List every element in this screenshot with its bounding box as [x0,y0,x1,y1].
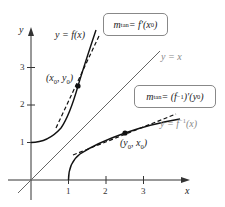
y-tick-3: 3 [20,63,25,72]
slope-inverse-annotation: mtan = (f−1)′(y0) [134,85,216,108]
x-tick-3: 3 [141,187,146,196]
identity-line-label: y = x [161,52,182,62]
y-axis-arrow-icon [28,27,34,36]
inverse-curve-label: y = f−1(x) [160,118,197,129]
y-axis-label: y [19,25,23,35]
x-tick-2: 2 [103,187,108,196]
point-x0-y0-label: (x0, y0) [46,73,73,86]
f-curve [31,30,96,143]
identity-line [18,51,160,193]
f-curve-label: y = f(x) [55,30,85,40]
y-tick-2: 2 [20,100,25,109]
y-tick-1: 1 [20,138,25,147]
axes [8,34,184,200]
x-axis-arrow-icon [181,177,190,183]
slope-f-annotation: mtan = f′(x0) [103,13,168,36]
x-tick-1: 1 [66,187,71,196]
point-y0-x0 [122,130,127,135]
inverse-tangent-diagram: y x 1 2 3 1 2 3 y = f(x) y = x y = f−1(x… [0,0,225,207]
point-x0-y0 [75,83,80,88]
point-y0-x0-label: (y0, x0) [120,138,147,151]
x-axis-label: x [185,186,189,196]
